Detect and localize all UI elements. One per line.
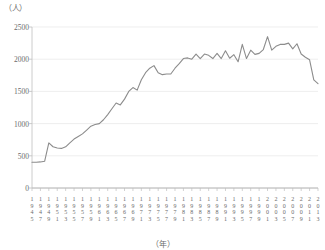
x-axis-tick-label: 2007 <box>289 196 296 222</box>
y-axis-tick-label: 2500 <box>14 23 29 32</box>
x-axis-tick-label: 2001 <box>264 196 271 222</box>
plot-svg <box>32 27 318 188</box>
x-axis-tick-label: 1971 <box>138 196 145 222</box>
x-axis-tick-labels: 1945194719491951195319551957195919611963… <box>32 196 318 238</box>
x-axis-tick-label: 2005 <box>281 196 288 222</box>
x-axis-tick-label: 2011 <box>306 196 313 222</box>
x-axis-unit-label: （年） <box>0 238 325 249</box>
x-axis-tick-label: 2003 <box>272 196 279 222</box>
data-series-line <box>32 37 318 163</box>
y-axis-tick-label: 1000 <box>14 119 29 128</box>
x-axis-tick-label: 1959 <box>87 196 94 222</box>
y-axis-tick-label: 1500 <box>14 87 29 96</box>
x-axis-tick-label: 1969 <box>129 196 136 222</box>
x-axis-tick-label: 2013 <box>315 196 322 222</box>
x-axis-tick-label: 1997 <box>247 196 254 222</box>
x-axis-tick-label: 1981 <box>180 196 187 222</box>
x-axis-tick-label: 1991 <box>222 196 229 222</box>
x-axis-tick-label: 1963 <box>104 196 111 222</box>
x-axis-tick-label: 1951 <box>54 196 61 222</box>
x-axis-tick-label: 1949 <box>45 196 52 222</box>
x-axis-tick-label: 1975 <box>155 196 162 222</box>
x-axis-tick-label: 1965 <box>113 196 120 222</box>
x-axis-tick-label: 1961 <box>96 196 103 222</box>
y-axis-tick-label: 0 <box>25 184 29 193</box>
x-axis-tick-label: 1945 <box>29 196 36 222</box>
y-axis-tick-labels: 05001000150020002500 <box>0 0 29 250</box>
y-axis-tick-label: 2000 <box>14 55 29 64</box>
x-axis-tick-label: 1955 <box>71 196 78 222</box>
x-axis-tick-label: 1947 <box>37 196 44 222</box>
x-axis-tick-label: 2009 <box>298 196 305 222</box>
x-axis-tick-label: 1989 <box>214 196 221 222</box>
x-axis-tick-label: 1995 <box>239 196 246 222</box>
y-axis-tick-label: 500 <box>18 151 29 160</box>
x-axis-tick-label: 1953 <box>62 196 69 222</box>
x-axis-tick-label: 1957 <box>79 196 86 222</box>
plot-area <box>32 27 318 188</box>
x-axis-tick-label: 1999 <box>256 196 263 222</box>
x-axis-tick-label: 1973 <box>146 196 153 222</box>
x-axis-tick-label: 1977 <box>163 196 170 222</box>
x-axis-ticks <box>32 188 318 191</box>
x-axis-tick-label: 1985 <box>197 196 204 222</box>
line-chart: （人） 05001000150020002500 194519471949195… <box>0 0 325 250</box>
x-axis-tick-label: 1987 <box>205 196 212 222</box>
x-axis-tick-label: 1967 <box>121 196 128 222</box>
x-axis-tick-label: 1979 <box>172 196 179 222</box>
gridlines <box>29 27 318 188</box>
x-axis-tick-label: 1993 <box>230 196 237 222</box>
x-axis-tick-label: 1983 <box>188 196 195 222</box>
